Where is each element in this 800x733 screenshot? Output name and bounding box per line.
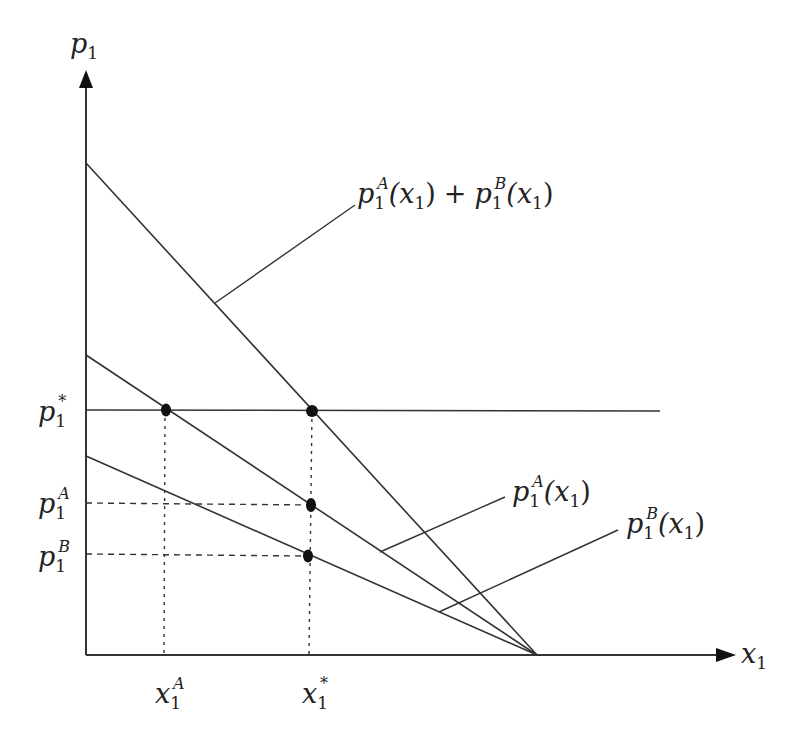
y-axis-label-sub: 1	[87, 43, 98, 63]
tick-sup: B	[58, 537, 70, 556]
label-sub: 1	[529, 491, 540, 511]
tick-base: x	[302, 678, 317, 709]
label-base: p	[357, 178, 374, 209]
y-tick-p-a: p1A	[38, 490, 70, 517]
label-arg: (x	[658, 508, 684, 539]
tick-sup: *	[58, 392, 66, 411]
label-base: p	[512, 476, 529, 507]
y-axis-label-base: p	[70, 28, 87, 59]
p-star-line	[86, 410, 660, 411]
y-axis-arrow-icon	[79, 70, 93, 88]
tick-sup: *	[320, 674, 328, 693]
label-close: )	[425, 178, 436, 209]
tick-base: p	[38, 396, 55, 427]
label-close: )	[543, 178, 554, 209]
label-sub: 1	[492, 193, 503, 213]
label-sup: B	[495, 174, 507, 193]
curve-b-label: p1B(x1)	[626, 510, 705, 537]
label-base: p	[626, 508, 643, 539]
tick-sub: 1	[55, 411, 66, 431]
point-xstar-pB	[303, 550, 313, 563]
label-sup: A	[377, 174, 389, 193]
x-axis-label: x1	[741, 640, 767, 667]
point-xstar-pA	[306, 498, 316, 512]
label-base: p	[474, 178, 491, 209]
pB-guide	[86, 554, 308, 556]
label-arg: (x	[544, 476, 570, 507]
x-axis-label-sub: 1	[756, 653, 767, 673]
pA-guide	[86, 503, 311, 505]
label-argsub: 1	[532, 193, 543, 213]
label-close: )	[694, 508, 705, 539]
point-xstar-pstar	[306, 405, 318, 417]
point-xA-pstar	[161, 404, 171, 417]
curve-b-leader	[439, 530, 618, 612]
y-tick-p-b: p1B	[38, 543, 70, 570]
label-argsub: 1	[569, 491, 580, 511]
tick-sub: 1	[317, 693, 328, 713]
x-tick-x-star: x1*	[302, 680, 328, 707]
x-tick-x-a: x1A	[155, 680, 185, 707]
xA-guide	[164, 410, 165, 655]
tick-sup: A	[58, 484, 70, 503]
x-axis-label-base: x	[741, 638, 756, 669]
y-axis-label: p1	[70, 30, 98, 57]
xstar-guide	[309, 411, 312, 655]
curve-a-label: p1A(x1)	[512, 478, 591, 505]
tick-sub: 1	[55, 503, 66, 523]
label-argsub: 1	[414, 193, 425, 213]
tick-sub: 1	[170, 693, 181, 713]
label-close: )	[580, 476, 591, 507]
label-sub: 1	[374, 193, 385, 213]
tick-base: p	[38, 541, 55, 572]
tick-sup: A	[173, 674, 185, 693]
supply-diagram	[0, 0, 800, 733]
label-sup: B	[646, 504, 658, 523]
x-axis-arrow-icon	[716, 648, 736, 662]
label-sup: A	[532, 472, 544, 491]
label-arg: (x	[506, 178, 532, 209]
tick-base: p	[38, 488, 55, 519]
combined-leader	[215, 205, 355, 303]
label-sub: 1	[643, 523, 654, 543]
label-arg: (x	[389, 178, 415, 209]
label-plus: +	[444, 178, 467, 209]
tick-base: x	[155, 678, 170, 709]
combined-curve-label: p1A(x1)+p1B(x1)	[357, 180, 553, 207]
tick-sub: 1	[55, 556, 66, 576]
label-argsub: 1	[684, 523, 695, 543]
y-tick-p-star: p1*	[38, 398, 66, 425]
